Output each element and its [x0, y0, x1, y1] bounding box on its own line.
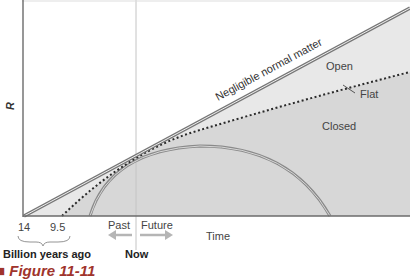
x-axis-label: Time: [206, 230, 230, 242]
tick-label-14: 14: [18, 221, 30, 233]
future-label: Future: [141, 219, 173, 231]
figure-caption: ■ Figure 11-11: [0, 262, 95, 279]
tick-label-9-5: 9.5: [50, 221, 65, 233]
now-label: Now: [125, 248, 148, 260]
closed-region: [62, 72, 410, 216]
future-arrow-icon: [140, 230, 173, 240]
closed-label: Closed: [322, 120, 356, 132]
open-label: Open: [326, 60, 353, 72]
billion-years-ago-label: Billion years ago: [3, 248, 91, 260]
past-label: Past: [108, 219, 130, 231]
tick-brace: [18, 236, 70, 246]
flat-label: Flat: [360, 88, 378, 100]
caption-bullet-icon: ■: [0, 262, 9, 279]
y-axis-label: R: [4, 102, 16, 110]
past-arrow-icon: [108, 230, 132, 240]
